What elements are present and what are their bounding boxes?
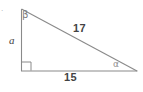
side-label-hypotenuse: 17 (73, 23, 86, 34)
right-angle-marker-icon (22, 62, 31, 71)
side-label-base: 15 (64, 72, 77, 83)
angle-label-beta: β (22, 10, 28, 20)
triangle-figure: a 17 15 β α · (0, 0, 143, 92)
scan-artifact-mark: · (1, 9, 5, 13)
hypotenuse-line (22, 9, 138, 71)
angle-label-alpha: α (113, 60, 119, 69)
side-label-a: a (9, 35, 15, 46)
